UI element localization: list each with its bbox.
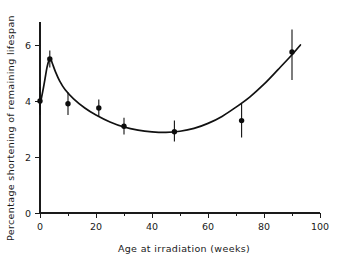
x-tick-label: 40	[146, 221, 158, 232]
data-point	[47, 56, 52, 61]
data-point	[172, 129, 177, 134]
x-axis-title: Age at irradiation (weeks)	[118, 243, 250, 254]
data-point	[37, 98, 42, 103]
data-point	[121, 124, 126, 129]
data-point	[65, 101, 70, 106]
x-tick-label: 0	[37, 221, 43, 232]
y-tick-label: 6	[25, 40, 31, 51]
data-point	[289, 49, 294, 54]
x-tick-label: 60	[202, 221, 214, 232]
y-tick-label: 2	[25, 152, 31, 163]
data-point	[239, 118, 244, 123]
fitted-curve	[40, 45, 300, 132]
y-tick-label: 4	[25, 96, 31, 107]
figure-container: 0246 020406080100 Age at irradiation (we…	[0, 0, 339, 261]
y-axis-ticks: 0246	[25, 40, 40, 219]
x-axis-ticks: 020406080100	[37, 213, 329, 232]
chart-canvas: 0246 020406080100 Age at irradiation (we…	[0, 0, 339, 261]
axes-group	[40, 22, 320, 213]
y-tick-label: 0	[25, 208, 31, 219]
x-tick-label: 20	[90, 221, 102, 232]
y-axis-title: Percentage shortening of remaining lifes…	[5, 15, 16, 241]
x-tick-label: 100	[311, 221, 329, 232]
fitted-curve-group	[40, 45, 300, 132]
x-tick-label: 80	[258, 221, 270, 232]
data-points-group	[37, 30, 294, 142]
data-point	[96, 105, 101, 110]
